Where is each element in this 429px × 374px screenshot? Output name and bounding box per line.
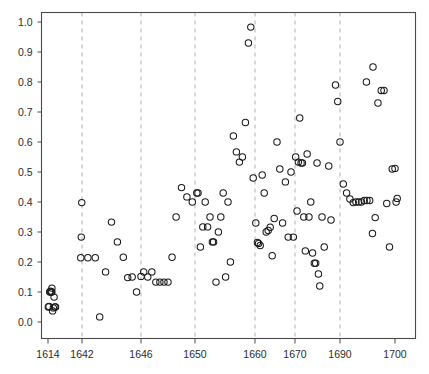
x-tick-label: 1670 — [283, 348, 307, 360]
data-point — [297, 115, 303, 121]
data-point — [165, 279, 171, 285]
data-point — [230, 133, 236, 139]
x-tick-label: 1700 — [383, 348, 407, 360]
data-point — [370, 64, 376, 70]
data-point — [97, 314, 103, 320]
y-tick-label: 0.6 — [18, 136, 33, 148]
y-tick-label: 1.0 — [18, 16, 33, 28]
data-point — [189, 199, 195, 205]
axis-frame — [42, 13, 416, 339]
y-tick-label: 0.0 — [18, 316, 33, 328]
data-point — [178, 184, 184, 190]
data-point — [340, 181, 346, 187]
data-point — [319, 214, 325, 220]
data-point — [315, 271, 321, 277]
data-point — [343, 190, 349, 196]
data-point — [169, 254, 175, 260]
data-point — [202, 199, 208, 205]
data-point — [227, 259, 233, 265]
x-tick-label: 1614 — [36, 348, 60, 360]
data-point — [363, 79, 369, 85]
data-point — [248, 24, 254, 30]
data-point — [239, 154, 245, 160]
data-point — [197, 244, 203, 250]
y-tick-label: 0.5 — [18, 166, 33, 178]
data-point — [184, 194, 190, 200]
data-point — [369, 230, 375, 236]
data-point — [233, 149, 239, 155]
data-point — [277, 166, 283, 172]
data-point — [85, 255, 91, 261]
data-point — [328, 217, 334, 223]
data-point — [274, 139, 280, 145]
y-tick-label: 0.4 — [18, 196, 33, 208]
x-tick-label: 1642 — [70, 348, 94, 360]
data-point — [372, 214, 378, 220]
x-tick-label: 1660 — [243, 348, 267, 360]
data-series-observations — [45, 24, 400, 320]
data-point — [173, 214, 179, 220]
data-point — [213, 279, 219, 285]
data-point — [78, 255, 84, 261]
data-point — [332, 82, 338, 88]
y-tick-label: 0.7 — [18, 106, 33, 118]
data-point — [204, 224, 210, 230]
x-tick-label: 1646 — [129, 348, 153, 360]
y-tick-label: 0.1 — [18, 286, 33, 298]
data-point — [149, 269, 155, 275]
data-point — [259, 172, 265, 178]
data-point — [222, 274, 228, 280]
data-point — [304, 151, 310, 157]
x-tick-label: 1650 — [183, 348, 207, 360]
data-point — [321, 244, 327, 250]
data-point — [102, 269, 108, 275]
data-point — [218, 214, 224, 220]
data-point — [386, 244, 392, 250]
data-point — [245, 40, 251, 46]
data-point — [250, 175, 256, 181]
data-point — [282, 179, 288, 185]
x-tick-label: 1690 — [328, 348, 352, 360]
y-tick-label: 0.9 — [18, 46, 33, 58]
data-point — [253, 220, 259, 226]
data-point — [384, 200, 390, 206]
data-point — [394, 195, 400, 201]
data-point — [279, 220, 285, 226]
data-point — [242, 119, 248, 125]
y-tick-label: 0.8 — [18, 76, 33, 88]
plot-area: 0.00.10.20.30.40.50.60.70.80.91.01614164… — [0, 0, 429, 374]
data-point — [261, 190, 267, 196]
y-tick-label: 0.2 — [18, 256, 33, 268]
data-point — [309, 250, 315, 256]
data-point — [120, 254, 126, 260]
data-point — [375, 100, 381, 106]
y-tick-label: 0.3 — [18, 226, 33, 238]
data-point — [215, 229, 221, 235]
data-point — [114, 239, 120, 245]
data-point — [78, 234, 84, 240]
data-point — [294, 208, 300, 214]
data-point — [225, 199, 231, 205]
data-point — [326, 163, 332, 169]
data-point — [108, 219, 114, 225]
data-point — [308, 199, 314, 205]
data-point — [133, 289, 139, 295]
data-point — [269, 253, 275, 259]
scatter-chart: 0.00.10.20.30.40.50.60.70.80.91.01614164… — [0, 0, 429, 374]
data-point — [129, 274, 135, 280]
data-point — [271, 215, 277, 221]
data-point — [92, 255, 98, 261]
data-point — [288, 169, 294, 175]
data-point — [317, 283, 323, 289]
data-point — [314, 160, 320, 166]
data-point — [302, 248, 308, 254]
data-point — [207, 214, 213, 220]
data-point — [220, 190, 226, 196]
